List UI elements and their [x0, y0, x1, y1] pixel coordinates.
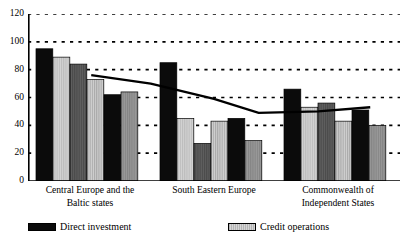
- legend-entry[interactable]: Direct investment: [28, 222, 131, 232]
- bar: [121, 92, 138, 181]
- legend-label: Credit operations: [260, 222, 329, 232]
- bar: [228, 118, 245, 181]
- category-label: South Eastern Europe: [152, 184, 276, 197]
- category-label-line2: Baltic states: [28, 197, 152, 210]
- category-label-line1: Central Europe and the: [28, 184, 152, 197]
- category-label: Commonwealth ofIndependent States: [276, 184, 400, 209]
- chart-title-cutoff: [0, 0, 402, 9]
- bar: [284, 89, 301, 181]
- plot-svg: [28, 14, 400, 181]
- bar: [369, 125, 386, 181]
- y-axis-tick-label: 60: [15, 93, 25, 103]
- category-labels: Central Europe and theBaltic statesSouth…: [28, 184, 400, 216]
- bar: [53, 57, 70, 181]
- chart-legend: Direct investmentCredit operations: [0, 222, 402, 241]
- bar: [177, 118, 194, 181]
- legend-swatch-icon: [228, 223, 256, 231]
- chart-container: 020406080100120: [0, 0, 402, 241]
- y-axis-tick-label: 20: [15, 148, 25, 158]
- bar: [36, 49, 53, 181]
- y-axis-labels: 020406080100120: [0, 14, 24, 181]
- bar: [211, 121, 228, 181]
- category-label: Central Europe and theBaltic states: [28, 184, 152, 209]
- bar: [301, 107, 318, 181]
- bar: [194, 143, 211, 181]
- bar: [318, 103, 335, 181]
- bar: [352, 110, 369, 181]
- y-axis-tick-label: 80: [15, 65, 25, 75]
- bar: [70, 64, 87, 181]
- bar: [104, 95, 121, 181]
- bar: [245, 141, 262, 181]
- legend-swatch-icon: [28, 223, 56, 231]
- y-axis-tick-label: 0: [19, 176, 24, 186]
- bar: [87, 79, 104, 181]
- y-axis-tick-label: 100: [10, 37, 24, 47]
- bar: [335, 121, 352, 181]
- y-axis-tick-label: 120: [10, 9, 24, 19]
- bars-layer: [36, 49, 386, 181]
- legend-entry[interactable]: Credit operations: [228, 222, 329, 232]
- category-label-line1: Commonwealth of: [276, 184, 400, 197]
- plot-area: [28, 14, 400, 181]
- y-axis-tick-label: 40: [15, 121, 25, 131]
- bar: [160, 63, 177, 181]
- category-label-line2: Independent States: [276, 197, 400, 210]
- legend-label: Direct investment: [60, 222, 131, 232]
- category-label-line1: South Eastern Europe: [152, 184, 276, 197]
